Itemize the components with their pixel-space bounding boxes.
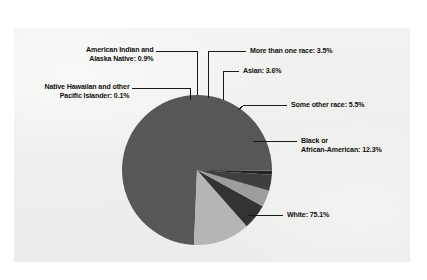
label-black-african-american: Black or African-American: 12.3%	[301, 136, 382, 155]
label-white: White: 75.1%	[287, 210, 329, 219]
label-american-indian-line1: American Indian and	[86, 45, 153, 54]
label-some-other-race: Some other race: 5.5%	[291, 100, 364, 109]
label-asian: Asian: 3.6%	[243, 66, 281, 75]
leader-asian	[223, 71, 239, 100]
pie-slices	[122, 95, 272, 245]
leader-some-other-race	[238, 105, 287, 110]
leader-more-than-one-race	[208, 51, 246, 98]
label-native-hawaiian-line1: Native Hawaiian and other	[45, 82, 130, 91]
label-native-hawaiian-pacific-islander: Native Hawaiian and other Pacific Island…	[45, 82, 130, 101]
pie-chart-figure: American Indian and Alaska Native: 0.9% …	[0, 0, 427, 280]
label-native-hawaiian-line2: Pacific Islander: 0.1%	[45, 91, 130, 100]
label-black-line1: Black or	[301, 136, 382, 145]
label-black-line2: African-American: 12.3%	[301, 145, 382, 154]
label-american-indian-alaska-native: American Indian and Alaska Native: 0.9%	[86, 45, 153, 64]
label-american-indian-line2: Alaska Native: 0.9%	[86, 54, 153, 63]
label-more-than-one-race: More than one race: 3.5%	[250, 46, 332, 55]
